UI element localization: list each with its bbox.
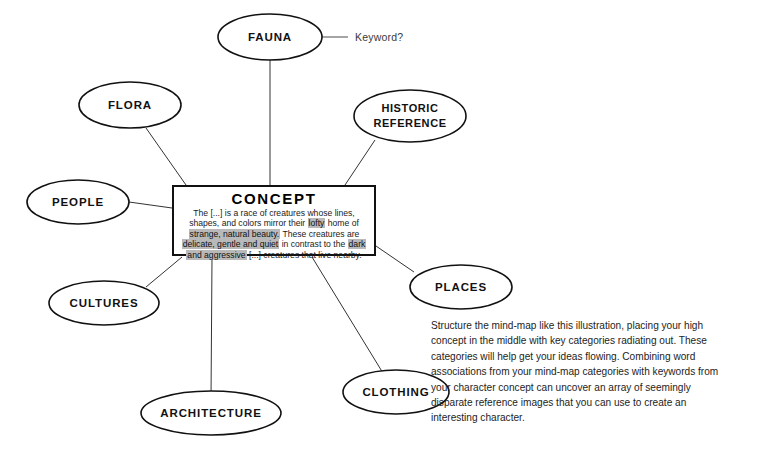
- node-fauna-label: FAUNA: [248, 31, 292, 43]
- concept-highlight-5: delicate, gentle and quiet: [182, 239, 280, 249]
- node-flora-label: FLORA: [108, 99, 152, 111]
- node-people[interactable]: PEOPLE: [27, 180, 129, 224]
- connector-architecture: [211, 257, 212, 399]
- concept-highlight-1: lofty: [308, 218, 326, 228]
- connector-cultures: [146, 257, 182, 287]
- node-architecture[interactable]: ARCHITECTURE: [141, 391, 281, 435]
- concept-highlight-3: strange, natural beauty.: [189, 229, 281, 239]
- connector-places: [376, 246, 414, 272]
- concept-box[interactable]: CONCEPT The [...] is a race of creatures…: [172, 185, 376, 256]
- node-places-label: PLACES: [435, 281, 487, 293]
- connector-clothing: [312, 257, 386, 378]
- node-cultures-label: CULTURES: [70, 297, 139, 309]
- node-flora[interactable]: FLORA: [79, 82, 181, 128]
- node-historic-reference-label-line2: REFERENCE: [373, 117, 446, 129]
- node-historic-reference[interactable]: HISTORIC REFERENCE: [354, 90, 466, 142]
- concept-body: The [...] is a race of creatures whose l…: [181, 208, 367, 260]
- node-people-label: PEOPLE: [52, 196, 104, 208]
- keyword-annotation-label: Keyword?: [355, 31, 403, 43]
- node-architecture-label: ARCHITECTURE: [160, 407, 262, 419]
- concept-title: CONCEPT: [181, 190, 367, 207]
- mind-map-illustration: Keyword? FAUNA FLORA HISTORIC REFERENCE …: [0, 0, 763, 450]
- connector-people: [129, 202, 172, 208]
- node-clothing-label: CLOTHING: [362, 386, 429, 398]
- caption-paragraph: Structure the mind-map like this illustr…: [431, 318, 731, 426]
- node-cultures[interactable]: CULTURES: [49, 281, 159, 325]
- node-fauna[interactable]: FAUNA: [218, 14, 322, 60]
- connector-historic: [345, 140, 375, 185]
- node-historic-reference-label-line1: HISTORIC: [381, 102, 438, 114]
- connector-flora: [146, 128, 186, 185]
- node-places[interactable]: PLACES: [410, 265, 512, 309]
- keyword-annotation: Keyword?: [322, 31, 403, 43]
